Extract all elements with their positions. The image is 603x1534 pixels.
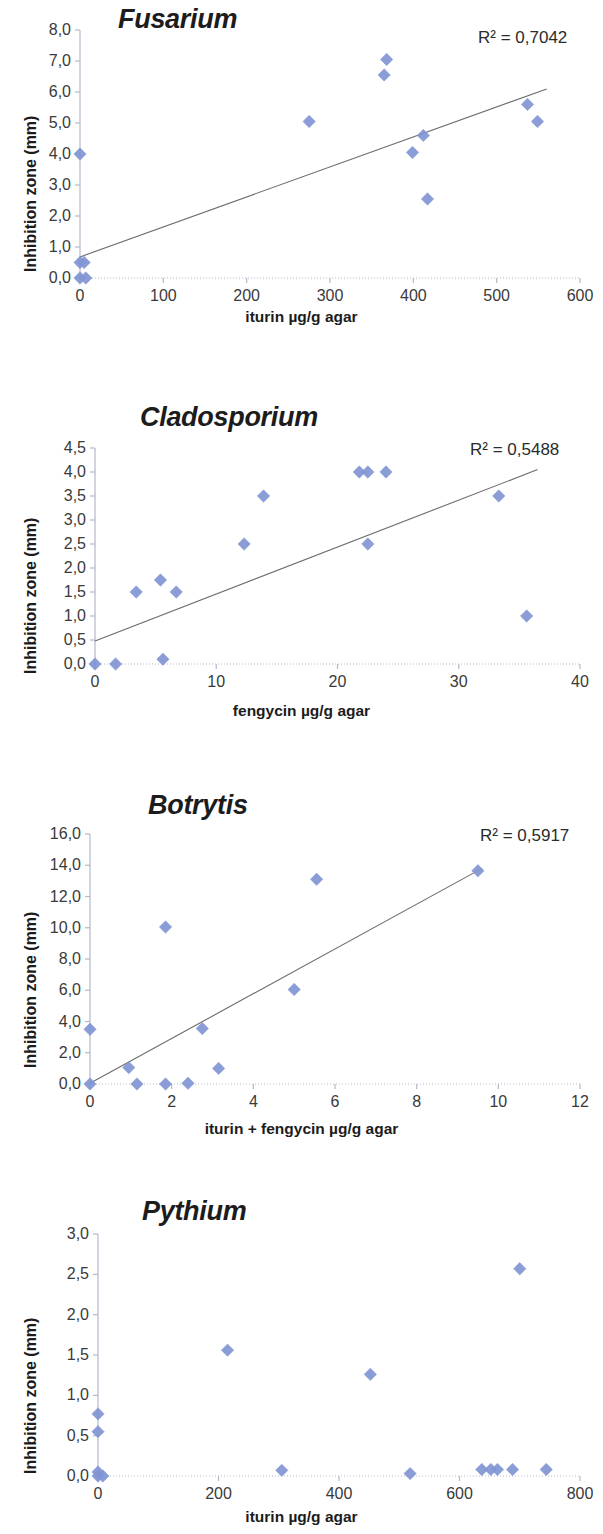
x-tick-label-cladosporium-1: 10 [207,673,225,691]
x-tick-label-cladosporium-3: 30 [450,673,468,691]
data-point [520,610,532,622]
y-tick-label-cladosporium-4: 2,0 [0,559,86,577]
data-point [531,115,543,127]
data-point [154,574,166,586]
x-axis-title-pythium: iturin µg/g agar [0,1508,603,1526]
y-tick-label-cladosporium-8: 4,0 [0,463,86,481]
y-tick-label-botrytis-5: 10,0 [0,919,81,937]
y-tick-label-pythium-0: 0,0 [0,1467,89,1485]
x-axis-title-botrytis: iturin + fengycin µg/g agar [0,1120,603,1138]
x-tick-label-botrytis-2: 4 [249,1093,258,1111]
y-tick-label-fusarium-7: 7,0 [0,52,71,70]
y-tick-label-botrytis-8: 16,0 [0,825,81,843]
x-tick-label-fusarium-3: 300 [317,287,344,305]
data-point [472,865,484,877]
x-tick-label-fusarium-4: 400 [400,287,427,305]
y-tick-label-pythium-3: 1,5 [0,1346,89,1364]
y-tick-label-fusarium-3: 3,0 [0,176,71,194]
chart-title-pythium: Pythium [142,1196,246,1227]
plot-area-pythium [98,1234,580,1476]
data-point [159,921,171,933]
data-point [89,658,101,670]
data-point [84,1078,96,1090]
data-point [378,69,390,81]
data-point [238,538,250,550]
x-tick-label-pythium-2: 400 [326,1485,353,1503]
y-tick-label-fusarium-2: 2,0 [0,207,71,225]
x-tick-label-cladosporium-4: 40 [571,673,589,691]
x-tick-label-fusarium-6: 600 [567,287,594,305]
data-point [521,98,533,110]
data-point [257,490,269,502]
data-point [380,466,392,478]
data-point [131,1078,143,1090]
plot-svg-pythium [98,1234,580,1476]
y-tick-label-pythium-5: 2,5 [0,1265,89,1283]
y-tick-label-botrytis-4: 8,0 [0,950,81,968]
data-point [506,1463,518,1475]
x-axis-title-cladosporium: fengycin µg/g agar [0,702,603,720]
trendline-botrytis [90,868,482,1083]
y-tick-label-cladosporium-6: 3,0 [0,511,86,529]
trendline-cladosporium [95,470,538,641]
x-tick-label-botrytis-3: 6 [331,1093,340,1111]
data-point [514,1262,526,1274]
data-point [540,1463,552,1475]
y-tick-label-cladosporium-5: 2,5 [0,535,86,553]
plot-area-cladosporium [95,448,580,664]
y-tick-label-botrytis-2: 4,0 [0,1013,81,1031]
chart-panel-pythium: Pythium Inhibition zone (mm) iturin µg/g… [0,1186,603,1534]
scatter-plot-figure: Fusarium R² = 0,7042 Inhibition zone (mm… [0,0,603,1534]
data-point [159,1078,171,1090]
y-tick-label-fusarium-0: 0,0 [0,269,71,287]
data-point [421,193,433,205]
x-tick-label-botrytis-0: 0 [86,1093,95,1111]
y-tick-label-fusarium-8: 8,0 [0,21,71,39]
data-point [364,1368,376,1380]
data-point [380,53,392,65]
y-tick-label-pythium-4: 2,0 [0,1306,89,1324]
x-tick-label-fusarium-2: 200 [233,287,260,305]
x-tick-label-botrytis-1: 2 [167,1093,176,1111]
y-tick-label-pythium-1: 0,5 [0,1427,89,1445]
chart-panel-fusarium: Fusarium R² = 0,7042 Inhibition zone (mm… [0,0,603,340]
x-tick-label-pythium-3: 600 [446,1485,473,1503]
x-tick-label-botrytis-6: 12 [571,1093,589,1111]
y-tick-label-fusarium-1: 1,0 [0,238,71,256]
data-point [92,1408,104,1420]
data-point [491,1463,503,1475]
data-point [109,658,121,670]
y-tick-label-botrytis-6: 12,0 [0,888,81,906]
trendline-fusarium [80,89,547,257]
x-tick-label-fusarium-1: 100 [150,287,177,305]
x-tick-label-botrytis-5: 10 [489,1093,507,1111]
data-point [303,115,315,127]
data-point [362,466,374,478]
x-tick-label-fusarium-5: 500 [483,287,510,305]
data-point [84,1023,96,1035]
data-point [130,586,142,598]
x-tick-label-pythium-0: 0 [94,1485,103,1503]
data-point [404,1467,416,1479]
data-point [310,873,322,885]
y-tick-label-fusarium-5: 5,0 [0,114,71,132]
data-point [417,129,429,141]
data-point [170,586,182,598]
y-tick-label-botrytis-3: 6,0 [0,981,81,999]
data-point [74,148,86,160]
data-point [212,1062,224,1074]
data-point [288,983,300,995]
y-tick-label-cladosporium-7: 3,5 [0,487,86,505]
data-point [276,1464,288,1476]
x-axis-title-fusarium: iturin µg/g agar [0,308,603,326]
y-tick-label-cladosporium-3: 1,5 [0,583,86,601]
x-tick-label-pythium-4: 800 [567,1485,594,1503]
x-tick-label-cladosporium-0: 0 [91,673,100,691]
plot-svg-cladosporium [95,448,580,664]
data-point [493,490,505,502]
data-point [221,1344,233,1356]
plot-svg-fusarium [80,30,580,278]
x-tick-label-pythium-1: 200 [205,1485,232,1503]
chart-panel-botrytis: Botrytis R² = 0,5917 Inhibition zone (mm… [0,782,603,1130]
y-tick-label-fusarium-4: 4,0 [0,145,71,163]
